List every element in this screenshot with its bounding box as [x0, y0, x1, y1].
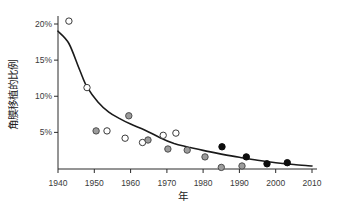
- open-circle-data-point: [122, 135, 128, 141]
- y-axis-tick-label: 5%: [40, 127, 53, 137]
- x-axis-tick-label: 1970: [157, 178, 176, 188]
- x-axis-tick-label: 1940: [49, 178, 68, 188]
- gray-circle-data-point: [239, 163, 245, 169]
- y-axis-tick-label: 10%: [35, 91, 52, 101]
- chart-canvas: 194019501960197019801990200020105%10%15%…: [0, 0, 340, 211]
- gray-circle-data-point: [202, 154, 208, 160]
- gray-circle-data-point: [218, 164, 224, 170]
- black-circle-data-point: [219, 144, 225, 150]
- gray-circle-data-point: [145, 137, 151, 143]
- open-circle-data-point: [84, 84, 90, 90]
- x-axis-title: 年: [178, 190, 188, 202]
- gray-circle-data-point: [126, 113, 132, 119]
- x-axis-tick-label: 2000: [266, 178, 285, 188]
- open-circle-data-point: [160, 132, 166, 138]
- x-axis-tick-label: 1990: [230, 178, 249, 188]
- gray-circle-data-point: [93, 128, 99, 134]
- chart-generated-layer: 194019501960197019801990200020105%10%15%…: [35, 16, 322, 188]
- x-axis-tick-label: 1960: [121, 178, 140, 188]
- gray-circle-data-point: [184, 147, 190, 153]
- y-axis-title: 角膜移植的比例: [7, 60, 19, 130]
- x-axis-tick-label: 2010: [303, 178, 322, 188]
- corneal-transplant-scatter-figure: 194019501960197019801990200020105%10%15%…: [0, 0, 340, 211]
- y-axis-tick-label: 20%: [35, 19, 52, 29]
- open-circle-data-point: [104, 128, 110, 134]
- y-axis-tick-label: 15%: [35, 55, 52, 65]
- x-axis-tick-label: 1950: [85, 178, 104, 188]
- black-circle-data-point: [243, 154, 249, 160]
- gray-circle-data-point: [165, 146, 171, 152]
- trend-curve: [58, 31, 312, 166]
- open-circle-data-point: [66, 18, 72, 24]
- x-axis-tick-label: 1980: [194, 178, 213, 188]
- black-circle-data-point: [284, 160, 290, 166]
- black-circle-data-point: [264, 161, 270, 167]
- open-circle-data-point: [173, 130, 179, 136]
